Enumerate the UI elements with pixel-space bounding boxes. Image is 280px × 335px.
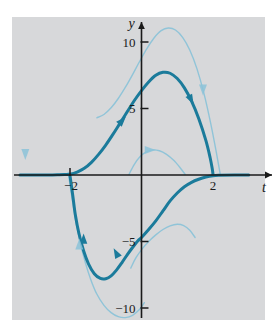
axes-layer	[14, 22, 272, 318]
axis-labels-layer: 105−5−10−22yt	[64, 16, 267, 316]
arrow-small-arc-right	[145, 146, 156, 154]
flow-arrows-layer	[21, 85, 207, 259]
x-axis-arrowhead	[265, 172, 272, 179]
curve-outer-upper-solution	[97, 28, 220, 174]
y-tick-label-3: −10	[115, 301, 135, 316]
y-axis-label: y	[126, 16, 135, 31]
curve-emphasized-solution-lower	[70, 175, 249, 279]
x-tick-label-0: −2	[64, 178, 78, 193]
y-tick-label-2: −5	[122, 234, 136, 249]
curve-inner-upper-small-arc	[129, 150, 185, 174]
y-tick-label-0: 10	[123, 35, 136, 50]
curve-inner-lower-small-arc	[131, 224, 195, 268]
arrow-lower-dark-up	[110, 246, 121, 259]
y-axis-arrowhead	[138, 22, 145, 29]
curves-layer	[20, 28, 249, 318]
arrow-left-down	[21, 149, 29, 160]
figure-container: 105−5−10−22yt	[0, 0, 280, 335]
curve-emphasized-solution	[20, 72, 213, 175]
x-tick-label-1: 2	[210, 178, 217, 193]
x-axis-label: t	[262, 180, 267, 195]
arrow-descending-light	[199, 85, 207, 96]
solution-curves-chart: 105−5−10−22yt	[0, 0, 280, 335]
y-tick-label-1: 5	[129, 101, 136, 116]
